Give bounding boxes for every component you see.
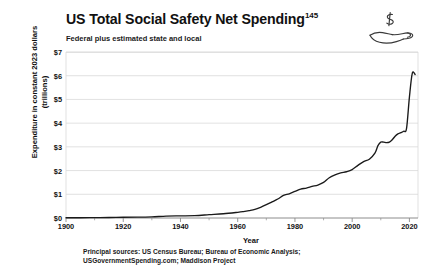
- x-tick-label: 1960: [229, 222, 245, 231]
- x-axis-label: Year: [0, 236, 436, 245]
- y-tick-label: $4: [38, 119, 62, 128]
- page-title: US Total Social Safety Net Spending145: [66, 11, 318, 27]
- sources-line-2: USGovernmentSpending.com; Maddison Proje…: [83, 256, 300, 265]
- x-tick-label: 1980: [287, 222, 303, 231]
- x-tick-label: 1900: [58, 222, 74, 231]
- x-tick-label: 1920: [115, 222, 131, 231]
- y-tick-label: $7: [38, 48, 62, 57]
- y-tick-label: $6: [38, 71, 62, 80]
- sources-line-1: Principal sources: US Census Bureau; Bur…: [83, 247, 300, 256]
- y-tick-label: $3: [38, 142, 62, 151]
- chart-figure: US Total Social Safety Net Spending145 F…: [0, 0, 436, 272]
- x-tick-label: 1940: [172, 222, 188, 231]
- plot-area: [66, 52, 418, 218]
- y-tick-label: $1: [38, 190, 62, 199]
- hand-holding-dollar-icon: [367, 10, 423, 48]
- y-tick-label: $5: [38, 95, 62, 104]
- x-axis-label-text: Year: [243, 236, 259, 245]
- x-axis-ticks: 1900192019401960198020002020: [66, 222, 418, 234]
- x-tick-label: 2020: [401, 222, 417, 231]
- title-text: US Total Social Safety Net Spending: [66, 11, 305, 27]
- title-superscript: 145: [305, 11, 318, 20]
- chart-subtitle: Federal plus estimated state and local: [66, 34, 201, 43]
- y-axis-ticks: $0$1$2$3$4$5$6$7: [36, 52, 62, 218]
- y-tick-label: $2: [38, 166, 62, 175]
- sources-note: Principal sources: US Census Bureau; Bur…: [83, 247, 300, 266]
- x-tick-label: 2000: [344, 222, 360, 231]
